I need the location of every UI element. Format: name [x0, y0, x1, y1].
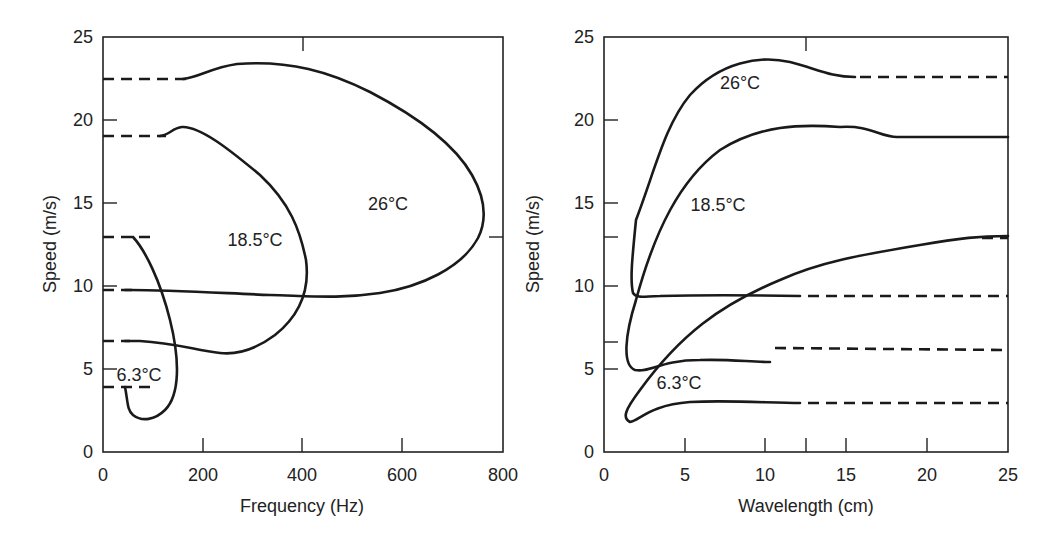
right-ytick-20: 20 [574, 110, 594, 130]
right-18c-asymptote-bottom [775, 348, 1008, 350]
left-label-6c: 6.3°C [116, 365, 161, 385]
left-ytick-20: 20 [73, 110, 93, 130]
right-ytick-25: 25 [574, 27, 594, 47]
left-ytick-25: 25 [73, 27, 93, 47]
left-chart: 0 5 10 15 20 25 0 200 400 600 800 Freque… [40, 27, 518, 516]
right-y-ticks [604, 120, 618, 369]
left-ytick-0: 0 [83, 442, 93, 462]
right-curve-6c [626, 236, 1008, 422]
right-label-6c: 6.3°C [656, 373, 701, 393]
right-label-26c: 26°C [720, 73, 760, 93]
left-xtick-800: 800 [488, 465, 518, 485]
right-x-ticks [685, 37, 927, 452]
figure-canvas: 0 5 10 15 20 25 0 200 400 600 800 Freque… [0, 0, 1052, 544]
right-xtick-10: 10 [755, 465, 775, 485]
right-curve-26c [632, 60, 855, 297]
left-curve-6c [125, 237, 177, 419]
left-x-axis-title: Frequency (Hz) [240, 496, 364, 516]
left-label-18c: 18.5°C [227, 230, 282, 250]
left-xtick-600: 600 [387, 465, 417, 485]
right-xtick-15: 15 [836, 465, 856, 485]
right-chart: 0 5 10 15 20 25 0 5 10 15 20 25 Waveleng… [523, 27, 1018, 516]
left-xtick-400: 400 [287, 465, 317, 485]
left-curve-26c [125, 63, 484, 296]
right-curve-18c [626, 126, 1008, 371]
right-ytick-5: 5 [584, 359, 594, 379]
right-y-axis-title: Speed (m/s) [523, 195, 543, 293]
right-ytick-15: 15 [574, 193, 594, 213]
left-ytick-15: 15 [73, 193, 93, 213]
left-y-axis-title: Speed (m/s) [40, 195, 60, 293]
right-xtick-0: 0 [599, 465, 609, 485]
right-ytick-0: 0 [584, 442, 594, 462]
left-ytick-5: 5 [83, 359, 93, 379]
right-x-axis-title: Wavelength (cm) [738, 496, 873, 516]
right-ytick-10: 10 [574, 276, 594, 296]
left-label-26c: 26°C [368, 194, 408, 214]
left-xtick-0: 0 [98, 465, 108, 485]
left-ytick-10: 10 [73, 276, 93, 296]
right-xtick-20: 20 [917, 465, 937, 485]
right-xtick-25: 25 [998, 465, 1018, 485]
right-label-18c: 18.5°C [690, 195, 745, 215]
right-xtick-5: 5 [680, 465, 690, 485]
left-xtick-200: 200 [188, 465, 218, 485]
